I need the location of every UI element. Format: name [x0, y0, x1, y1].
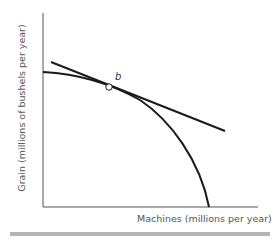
ppf-chart [0, 0, 280, 240]
bottom-divider [10, 232, 270, 236]
point-b-marker [106, 84, 112, 90]
tangent-line [51, 62, 225, 131]
x-axis-label: Machines (millions per year) [137, 213, 272, 224]
y-axis-label: Grain (millions of bushels per year) [16, 24, 27, 191]
point-b-label: b [115, 71, 121, 82]
